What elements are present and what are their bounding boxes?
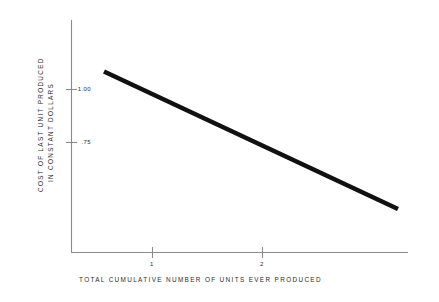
cost-curve-line	[104, 72, 398, 210]
x-axis-tick-label-2: 2	[260, 261, 264, 267]
x-axis-title: TOTAL CUMULATIVE NUMBER OF UNITS EVER PR…	[79, 277, 322, 283]
chart-plot-area	[0, 0, 439, 302]
y-axis-tick-label-0-75: .75	[81, 139, 91, 145]
x-axis-tick-label-1: 1	[150, 261, 154, 267]
y-axis-tick-label-1-00: 1.00	[78, 86, 91, 92]
learning-curve-chart-figure: 1.00 .75 1 2 TOTAL CUMULATIVE NUMBER OF …	[0, 0, 439, 302]
